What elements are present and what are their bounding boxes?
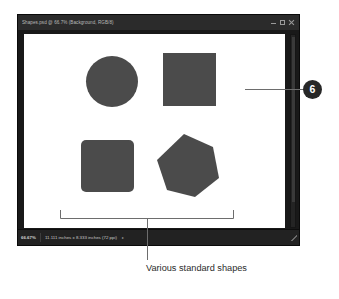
vertical-scrollbar[interactable] — [290, 34, 296, 228]
annotation-caption: Various standard shapes — [146, 262, 266, 274]
close-glyph — [289, 20, 294, 25]
bracket-svg — [60, 210, 234, 219]
canvas-work-area — [18, 30, 299, 229]
maximize-glyph — [280, 20, 285, 25]
window-controls — [271, 20, 296, 25]
minimize-glyph — [271, 20, 276, 24]
status-bar: 66.67% 11.111 inches x 8.333 inches (72 … — [18, 229, 299, 245]
status-divider — [40, 233, 41, 242]
shape-hexagon[interactable] — [157, 134, 219, 197]
shape-square[interactable] — [163, 53, 216, 106]
maximize-icon[interactable] — [280, 20, 285, 25]
shape-circle[interactable] — [86, 56, 138, 107]
minimize-icon[interactable] — [271, 20, 276, 25]
document-canvas[interactable] — [24, 34, 285, 228]
shape-rounded-rect[interactable] — [81, 140, 134, 192]
callout-badge-6: 6 — [303, 80, 322, 99]
status-document-dimensions: 11.111 inches x 8.333 inches (72 ppi) — [45, 235, 117, 240]
vertical-scrollbar-thumb[interactable] — [292, 37, 295, 202]
close-icon[interactable] — [289, 20, 294, 25]
hexagon-svg — [157, 134, 219, 197]
annotation-bracket — [60, 210, 234, 219]
annotation-bracket-stem — [147, 219, 148, 260]
callout-leader-line — [245, 89, 307, 90]
status-zoom-level[interactable]: 66.67% — [21, 235, 36, 240]
window-title-bar[interactable]: Shapes.psd @ 66.7% (Background, RGB/8) — [18, 15, 299, 30]
window-title: Shapes.psd @ 66.7% (Background, RGB/8) — [22, 20, 271, 25]
resize-grip-icon[interactable] — [290, 234, 297, 241]
status-expand-arrow-icon[interactable]: ▸ — [122, 235, 124, 240]
